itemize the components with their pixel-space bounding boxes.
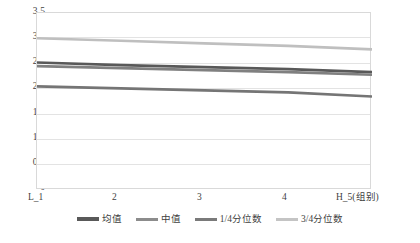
legend-item-q3[interactable]: 3/4分位数 bbox=[276, 214, 343, 224]
legend-swatch-icon bbox=[77, 217, 99, 220]
legend-swatch-icon bbox=[276, 218, 298, 221]
legend-label: 中值 bbox=[161, 214, 181, 224]
legend-label: 3/4分位数 bbox=[301, 214, 343, 224]
x-tick-label: 3 bbox=[197, 192, 202, 202]
legend-item-q1[interactable]: 1/4分位数 bbox=[195, 214, 262, 224]
legend-label: 均值 bbox=[102, 214, 122, 224]
legend-swatch-icon bbox=[136, 218, 158, 221]
chart-legend: 均值 中值 1/4分位数 3/4分位数 bbox=[0, 214, 420, 224]
legend-swatch-icon bbox=[195, 218, 217, 221]
plot-area bbox=[36, 12, 371, 189]
x-tick-label: 2 bbox=[112, 192, 117, 202]
line-chart: 3.5 3.0 2.5 2.0 1.5 1.0 0.5 0 L_1 2 3 4 … bbox=[0, 0, 420, 243]
legend-label: 1/4分位数 bbox=[220, 214, 262, 224]
series-lines bbox=[37, 13, 372, 190]
series-line bbox=[37, 38, 372, 49]
x-tick-label: H_5(组别) bbox=[336, 192, 379, 202]
x-tick-label: 4 bbox=[282, 192, 287, 202]
legend-item-median[interactable]: 中值 bbox=[136, 214, 181, 224]
legend-item-mean[interactable]: 均值 bbox=[77, 214, 122, 224]
x-tick-label: L_1 bbox=[28, 192, 43, 202]
series-line bbox=[37, 86, 372, 96]
